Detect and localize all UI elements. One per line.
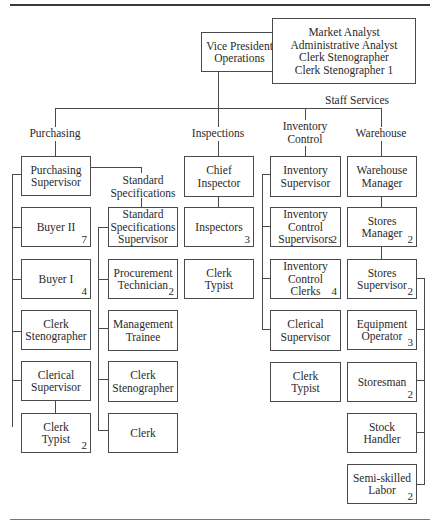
management-trainee-box[interactable]: Management Trainee xyxy=(108,310,178,351)
clerk-typist-box[interactable]: Clerk Typist xyxy=(270,362,341,402)
box-title: Clerk Typist xyxy=(205,267,234,292)
conn xyxy=(416,380,425,381)
headcount: 4 xyxy=(332,285,338,298)
semi-skilled-labor-box[interactable]: Semi-skilled Labor2 xyxy=(347,464,417,504)
box-title: Inventory Control Clerks xyxy=(283,260,328,298)
vp-connector xyxy=(218,71,219,128)
std-specs-supervisor-box[interactable]: Standard Specifications Supervisor xyxy=(108,207,178,247)
stores-manager-box[interactable]: Stores Manager2 xyxy=(347,207,417,247)
box-title: Clerk Stenographer xyxy=(112,369,173,394)
bottom-rule xyxy=(10,519,430,520)
headcount: 7 xyxy=(82,233,88,246)
warehouse-connector xyxy=(381,141,382,156)
clerk-stenographer-box[interactable]: Clerk Stenographer xyxy=(21,310,91,350)
inventory-control-label: Inventory Control xyxy=(266,120,344,145)
inventory-control-supervisors-box[interactable]: Inventory Control Supervisors2 xyxy=(270,207,341,247)
box-title: Clerk Typist xyxy=(291,370,320,395)
staff-positions: Market Analyst Administrative Analyst Cl… xyxy=(290,26,397,76)
box-title: Warehouse Manager xyxy=(357,164,408,189)
conn xyxy=(98,227,108,228)
box-title: Semi-skilled Labor xyxy=(353,472,411,497)
clerk-box[interactable]: Clerk xyxy=(108,413,178,453)
box-title: Procurement Technician xyxy=(114,267,173,292)
conn xyxy=(416,278,425,279)
clerk-typist-box[interactable]: Clerk Typist2 xyxy=(21,413,91,453)
vp-title: Vice President Operations xyxy=(206,40,273,65)
clerk-typist-box[interactable]: Clerk Typist xyxy=(184,259,254,299)
conn xyxy=(262,226,270,227)
headcount: 2 xyxy=(332,233,338,246)
conn xyxy=(262,329,270,330)
box-title: Inspectors xyxy=(195,221,242,234)
standard-specifications-label: Standard Specifications xyxy=(106,174,180,199)
inventory-control-clerks-box[interactable]: Inventory Control Clerks4 xyxy=(270,259,341,299)
buyer-ii-box[interactable]: Buyer II7 xyxy=(21,207,91,247)
warehouse-label: Warehouse xyxy=(341,127,421,140)
box-title: Buyer II xyxy=(37,221,76,234)
conn xyxy=(262,278,270,279)
box-title: Inventory Supervisor xyxy=(281,164,331,189)
box-title: Stores Manager xyxy=(362,215,403,240)
box-title: Clerk xyxy=(130,427,156,440)
conn xyxy=(381,196,382,207)
purchasing-drop xyxy=(55,108,56,128)
equipment-operator-box[interactable]: Equipment Operator3 xyxy=(347,310,417,350)
conn xyxy=(91,167,142,168)
conn xyxy=(416,432,425,433)
inventory-drop xyxy=(305,108,306,120)
headcount: 4 xyxy=(82,285,88,298)
stores-supervisor-box[interactable]: Stores Supervisor2 xyxy=(347,259,417,299)
chief-inspector-box[interactable]: Chief Inspector xyxy=(184,156,254,197)
box-title: Buyer I xyxy=(39,273,74,286)
clerk-stenographer-box[interactable]: Clerk Stenographer xyxy=(108,361,178,402)
inventory-spine xyxy=(262,174,263,330)
warehouse-manager-box[interactable]: Warehouse Manager xyxy=(347,156,417,197)
purchasing-supervisor-box[interactable]: Purchasing Supervisor xyxy=(21,156,91,196)
department-bus xyxy=(55,108,382,109)
inspectors-box[interactable]: Inspectors3 xyxy=(184,207,254,247)
inspections-connector xyxy=(218,141,219,156)
conn xyxy=(141,198,142,207)
box-title: Purchasing Supervisor xyxy=(30,164,81,189)
conn xyxy=(416,329,425,330)
box-title: Clerical Supervisor xyxy=(31,369,81,394)
vp-operations-box[interactable]: Vice President Operations xyxy=(201,32,278,72)
headcount: 3 xyxy=(245,233,251,246)
procurement-technician-box[interactable]: Procurement Technician2 xyxy=(108,259,178,299)
purchasing-label: Purchasing xyxy=(15,127,95,140)
headcount: 2 xyxy=(408,388,414,401)
staff-services-label: Staff Services xyxy=(312,94,402,107)
headcount: 2 xyxy=(408,285,414,298)
staff-services-box[interactable]: Market Analyst Administrative Analyst Cl… xyxy=(272,18,416,84)
top-rule xyxy=(10,4,430,6)
headcount: 2 xyxy=(408,490,414,503)
conn xyxy=(12,174,21,175)
clerical-supervisor-box[interactable]: Clerical Supervisor xyxy=(270,310,341,351)
box-title: Stock Handler xyxy=(363,421,400,446)
conn xyxy=(12,227,21,228)
conn xyxy=(262,174,270,175)
storesman-box[interactable]: Storesman2 xyxy=(347,362,417,402)
warehouse-drop xyxy=(381,108,382,128)
headcount: 3 xyxy=(408,336,414,349)
purchasing-spine xyxy=(12,174,13,427)
warehouse-spine xyxy=(424,278,425,485)
conn xyxy=(12,331,21,332)
conn xyxy=(55,401,56,413)
conn xyxy=(12,380,21,381)
inventory-supervisor-box[interactable]: Inventory Supervisor xyxy=(270,156,341,197)
box-title: Storesman xyxy=(358,376,407,389)
conn xyxy=(141,167,142,173)
box-title: Inventory Control Supervisors xyxy=(278,208,332,246)
box-title: Standard Specifications Supervisor xyxy=(110,208,175,246)
headcount: 2 xyxy=(408,233,414,246)
inventory-connector xyxy=(305,146,306,156)
stock-handler-box[interactable]: Stock Handler xyxy=(347,413,417,453)
box-title: Clerical Supervisor xyxy=(281,318,331,343)
clerical-supervisor-box[interactable]: Clerical Supervisor xyxy=(21,361,91,401)
headcount: 2 xyxy=(169,285,175,298)
purchasing-connector xyxy=(55,141,56,156)
box-title: Equipment Operator xyxy=(357,318,407,343)
conn xyxy=(381,247,382,259)
buyer-i-box[interactable]: Buyer I4 xyxy=(21,259,91,299)
